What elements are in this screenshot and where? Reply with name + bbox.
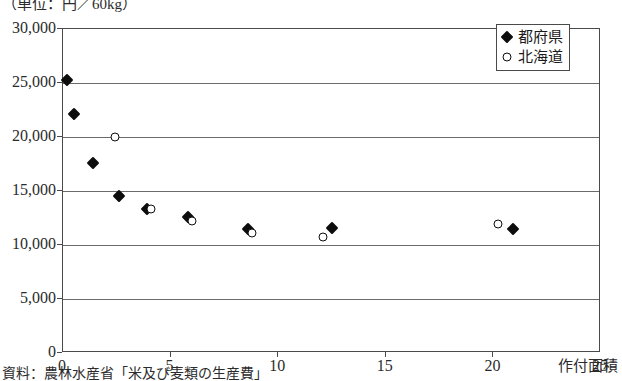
data-point-hokkaido (147, 205, 156, 214)
x-axis-title: 作付面積 (558, 358, 618, 374)
y-axis-tick-label: 25,000 (0, 74, 56, 90)
y-axis-tick-label: 20,000 (0, 128, 56, 144)
gridline (63, 191, 599, 192)
source-note: 資料：農林水産省「米及び麦類の生産費」 (2, 366, 268, 381)
data-point-tofuken (242, 222, 255, 235)
x-axis-tick-mark (492, 352, 493, 357)
data-point-tofuken (87, 157, 100, 170)
data-point-tofuken (506, 222, 519, 235)
data-point-hokkaido (493, 220, 502, 229)
legend-item-label: 北海道 (518, 50, 563, 65)
y-axis-tick-label: 30,000 (0, 20, 56, 36)
data-point-tofuken (61, 73, 74, 86)
data-point-tofuken (326, 221, 339, 234)
legend-item-label: 都府県 (518, 30, 563, 45)
unit-caption: （単位：円／60kg） (2, 0, 137, 12)
data-point-hokkaido (248, 229, 257, 238)
x-axis-tick-mark (385, 352, 386, 357)
plot-area (62, 28, 600, 352)
y-axis-tick-label: 0 (0, 344, 56, 360)
x-axis-tick-mark (170, 352, 171, 357)
y-axis-tick-label: 5,000 (0, 290, 56, 306)
legend-item-2[interactable]: 北海道 (501, 47, 563, 67)
data-point-hokkaido (319, 233, 328, 242)
gridline (63, 299, 599, 300)
y-axis-tick-mark (57, 352, 62, 353)
data-point-tofuken (181, 211, 194, 224)
legend-item-1[interactable]: 都府県 (501, 27, 563, 47)
x-axis-tick-mark (277, 352, 278, 357)
data-point-tofuken (141, 203, 154, 216)
chart-legend: 都府県北海道 (496, 24, 570, 71)
data-point-tofuken (67, 108, 80, 121)
gridline (63, 83, 599, 84)
gridline (63, 245, 599, 246)
circle-icon (501, 51, 513, 63)
data-point-hokkaido (188, 217, 197, 226)
y-axis-tick-label: 10,000 (0, 236, 56, 252)
x-axis-tick-label: 20 (472, 358, 512, 374)
diamond-icon (501, 31, 513, 43)
y-axis-tick-label: 15,000 (0, 182, 56, 198)
gridline (63, 137, 599, 138)
x-axis-tick-label: 15 (365, 358, 405, 374)
